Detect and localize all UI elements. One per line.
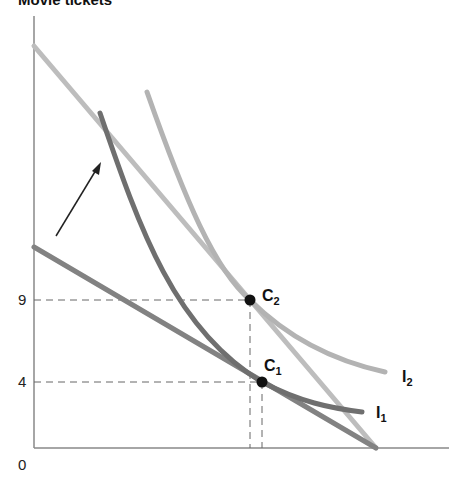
label-c1: C1: [264, 357, 282, 377]
label-i1: I1: [376, 404, 387, 424]
indifference-curve-i2: [147, 92, 385, 372]
label-i2: I2: [402, 368, 413, 388]
point-c2: [245, 295, 256, 306]
guide-lines: [34, 300, 262, 448]
budget-line-new: [34, 46, 376, 448]
y-tick-9: 9: [18, 291, 26, 308]
indifference-curve-i1: [100, 113, 362, 412]
label-c2: C2: [262, 287, 280, 307]
budget-line-original: [34, 247, 376, 448]
shift-arrow-line: [56, 170, 96, 236]
point-c1: [257, 377, 268, 388]
y-tick-4: 4: [18, 373, 26, 390]
origin-label: 0: [18, 456, 26, 473]
